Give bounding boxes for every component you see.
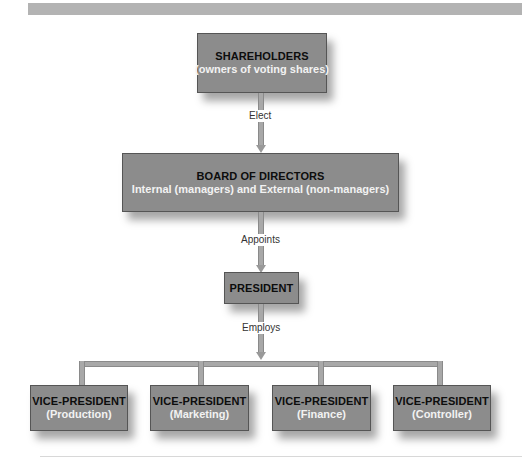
vp-title: VICE-PRESIDENT [153, 395, 247, 408]
connector-vp-controller [437, 361, 443, 386]
board-subtitle: Internal (managers) and External (non-ma… [132, 183, 389, 196]
board-of-directors-box: BOARD OF DIRECTORS Internal (managers) a… [122, 153, 399, 212]
vp-production-box: VICE-PRESIDENT (Production) [30, 385, 128, 431]
connector-vp-production [79, 361, 85, 386]
arrow-down-icon [256, 352, 266, 360]
president-box: PRESIDENT [224, 272, 299, 304]
vp-subtitle: (Finance) [297, 408, 346, 421]
arrow-down-icon [256, 145, 266, 153]
edge-label-employs: Employs [241, 322, 281, 334]
vp-title: VICE-PRESIDENT [32, 395, 126, 408]
board-title: BOARD OF DIRECTORS [196, 170, 324, 183]
vp-distribution-bar [79, 361, 443, 367]
vp-finance-box: VICE-PRESIDENT (Finance) [272, 385, 371, 431]
vp-title: VICE-PRESIDENT [395, 395, 489, 408]
connector-vp-finance [318, 361, 324, 386]
vp-controller-box: VICE-PRESIDENT (Controller) [393, 385, 491, 431]
vp-subtitle: (Marketing) [170, 408, 229, 421]
vp-subtitle: (Controller) [412, 408, 472, 421]
top-decorative-band [28, 3, 522, 15]
edge-label-elect: Elect [248, 110, 272, 122]
vp-marketing-box: VICE-PRESIDENT (Marketing) [150, 385, 249, 431]
president-title: PRESIDENT [230, 282, 294, 295]
shareholders-subtitle: (owners of voting shares) [195, 63, 329, 76]
edge-label-appoints: Appoints [240, 234, 281, 246]
shareholders-title: SHAREHOLDERS [215, 50, 309, 63]
connector-vp-marketing [198, 361, 204, 386]
shareholders-box: SHAREHOLDERS (owners of voting shares) [197, 33, 327, 93]
vp-title: VICE-PRESIDENT [275, 395, 369, 408]
vp-subtitle: (Production) [46, 408, 111, 421]
bottom-divider [40, 456, 522, 457]
